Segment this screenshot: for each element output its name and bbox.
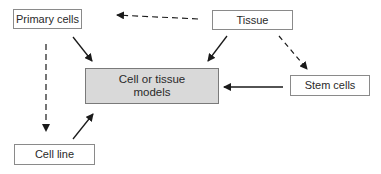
node-label: Primary cells	[16, 13, 79, 26]
node-label: Cell line	[35, 148, 74, 161]
edge-cell-line-to-models	[73, 114, 93, 139]
edge-tissue-to-stem-cells	[279, 36, 307, 69]
node-label-line2: models	[133, 86, 170, 99]
edge-primary-cells-to-models	[73, 37, 92, 61]
edge-tissue-to-primary-cells	[117, 15, 198, 19]
node-cell-line: Cell line	[14, 144, 95, 165]
node-label-line1: Cell or tissue	[119, 73, 185, 86]
node-cell-or-tissue-models: Cell or tissue models	[85, 68, 219, 104]
node-tissue: Tissue	[212, 10, 293, 30]
node-label: Tissue	[237, 14, 269, 27]
node-label: Stem cells	[305, 79, 356, 92]
edge-tissue-to-models	[208, 36, 227, 61]
node-primary-cells: Primary cells	[13, 9, 82, 29]
node-stem-cells: Stem cells	[290, 75, 370, 96]
